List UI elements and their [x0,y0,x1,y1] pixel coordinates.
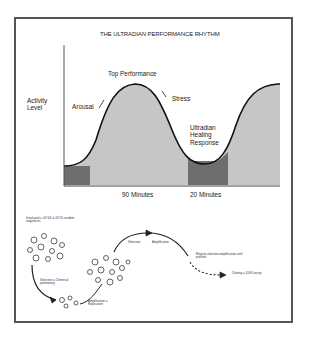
selection-label: Selection [128,241,140,244]
top-performance-label: Top Performance [108,70,157,77]
rest-band-left [64,166,90,185]
amplification-label: Amplification [152,241,169,244]
selected-molecules-icon [60,296,79,308]
healing-response-label: Ultradian Healing Response [190,124,219,146]
x-label-20-minutes: 20 Minutes [190,191,221,198]
initial-pool-molecules-icon [28,234,65,262]
amplification-replication-label: Amplification = Replication [88,300,118,307]
arousal-arrow-icon [99,100,104,108]
healing-line1: Ultradian [190,124,219,131]
selection-partition-label: Selection = Chemical partitioning [40,279,80,286]
process-diagram [28,230,227,308]
rhythm-chart-graphic [0,0,309,338]
initial-pool-label: Initial pool = 10^14 to 10^15 random seq… [26,217,76,224]
x-label-90-minutes: 90 Minutes [122,191,153,198]
stress-arrow-icon [162,91,166,97]
arrow-selection-amplification [114,233,188,256]
cloning-label: Cloning = 100% purity [232,272,262,275]
y-axis-label-line1: Activity [27,97,47,104]
healing-line3: Response [190,139,219,146]
repeat-label: Repeat selection-amplification until pur… [196,253,244,260]
arrow-repeat-dotted [190,262,222,275]
y-axis-label: Activity Level [27,97,47,112]
stress-label: Stress [172,95,190,102]
healing-line2: Healing [190,131,219,138]
amplified-pool-molecules-icon [88,256,131,286]
arousal-label: Arousal [72,103,94,110]
chart-title: THE ULTRADIAN PERFORMANCE RHYTHM [100,31,220,38]
y-axis-label-line2: Level [27,104,47,111]
